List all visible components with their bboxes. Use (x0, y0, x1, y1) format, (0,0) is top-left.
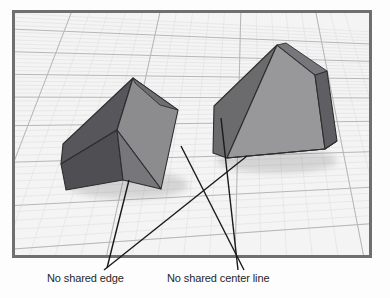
annotation-label-no-shared-edge: No shared edge (47, 272, 124, 284)
annotation-label-no-shared-center-line: No shared center line (167, 272, 269, 284)
figure-canvas: No shared edge No shared center line (0, 0, 390, 298)
viewport-scene (15, 13, 369, 255)
photo-grain (15, 13, 369, 255)
viewport-frame (12, 10, 372, 258)
